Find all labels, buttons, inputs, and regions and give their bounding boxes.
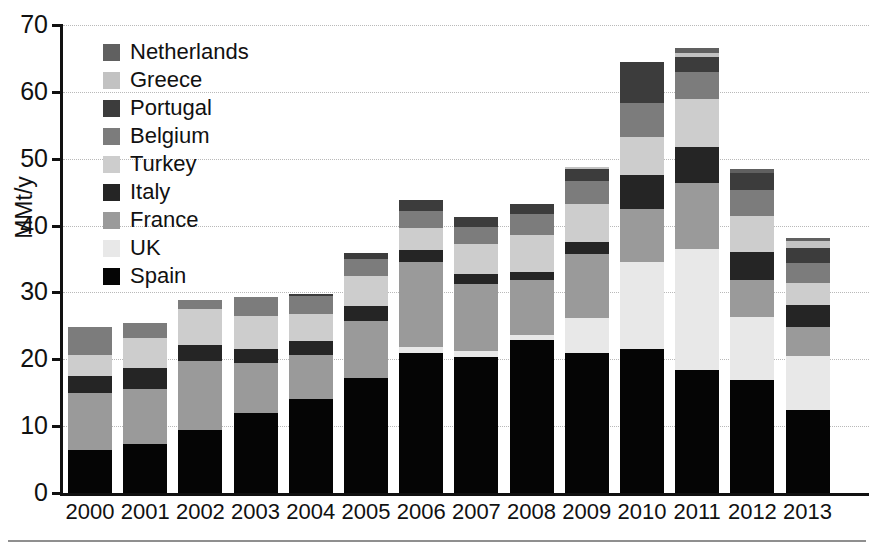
bar-segment-italy-2009 (565, 242, 609, 254)
bar-segment-france-2013 (786, 327, 830, 356)
bar-2012[interactable] (730, 169, 774, 493)
legend-item-label: Portugal (130, 97, 212, 119)
legend-item-label: France (130, 209, 198, 231)
x-axis-tick-label: 2008 (502, 500, 562, 524)
legend-item-label: UK (130, 237, 161, 259)
bar-segment-turkey-2007 (454, 244, 498, 275)
bar-segment-greece-2013 (786, 241, 830, 248)
y-axis-tick-mark (52, 492, 63, 495)
x-axis-spine (60, 493, 869, 496)
bar-segment-italy-2002 (178, 345, 222, 362)
x-axis-tick-label: 2013 (778, 500, 838, 524)
bar-segment-italy-2007 (454, 274, 498, 283)
y-axis-tick-mark (52, 291, 63, 294)
bar-2001[interactable] (123, 323, 167, 493)
legend-item-label: Netherlands (130, 41, 249, 63)
bar-segment-italy-2005 (344, 306, 388, 321)
bar-segment-italy-2001 (123, 368, 167, 389)
bar-segment-uk-2009 (565, 318, 609, 353)
bar-segment-turkey-2008 (510, 235, 554, 272)
bar-segment-portugal-2011 (675, 57, 719, 72)
bar-segment-france-2012 (730, 280, 774, 317)
bar-segment-portugal-2013 (786, 248, 830, 263)
x-axis-tick-label: 2001 (115, 500, 175, 524)
bar-segment-belgium-2012 (730, 190, 774, 217)
bar-2005[interactable] (344, 253, 388, 493)
legend-item-uk[interactable]: UK (103, 234, 333, 262)
bar-2011[interactable] (675, 48, 719, 493)
legend-item-italy[interactable]: Italy (103, 178, 333, 206)
bar-2013[interactable] (786, 238, 830, 493)
legend-swatch-icon (103, 240, 120, 257)
legend-item-label: Italy (130, 181, 170, 203)
bar-segment-spain-2000 (68, 450, 112, 493)
bar-segment-belgium-2006 (399, 211, 443, 228)
legend-item-netherlands[interactable]: Netherlands (103, 38, 333, 66)
bottom-rule-divider (8, 540, 866, 542)
bar-segment-belgium-2002 (178, 300, 222, 309)
bar-segment-france-2001 (123, 389, 167, 444)
bar-segment-portugal-2009 (565, 169, 609, 181)
bar-segment-france-2009 (565, 254, 609, 318)
y-axis-tick-mark (52, 158, 63, 161)
legend-item-portugal[interactable]: Portugal (103, 94, 333, 122)
bar-segment-france-2011 (675, 183, 719, 249)
legend-swatch-icon (103, 44, 120, 61)
y-axis-tick-label: 10 (0, 413, 48, 438)
bar-segment-france-2004 (289, 355, 333, 400)
bar-2000[interactable] (68, 327, 112, 493)
bar-segment-turkey-2006 (399, 228, 443, 249)
bar-segment-italy-2011 (675, 147, 719, 183)
bar-segment-spain-2008 (510, 340, 554, 493)
bar-segment-france-2000 (68, 393, 112, 450)
bar-segment-france-2008 (510, 280, 554, 335)
bar-segment-italy-2013 (786, 305, 830, 327)
legend-item-greece[interactable]: Greece (103, 66, 333, 94)
y-axis-tick-mark (52, 91, 63, 94)
legend-item-belgium[interactable]: Belgium (103, 122, 333, 150)
bar-segment-spain-2002 (178, 430, 222, 494)
y-axis-tick-label: 30 (0, 279, 48, 304)
legend-item-spain[interactable]: Spain (103, 262, 333, 290)
legend-swatch-icon (103, 184, 120, 201)
bar-segment-spain-2011 (675, 370, 719, 493)
bar-segment-portugal-2006 (399, 200, 443, 211)
x-axis-tick-label: 2006 (391, 500, 451, 524)
bar-2009[interactable] (565, 167, 609, 493)
bar-segment-turkey-2013 (786, 283, 830, 304)
legend-item-turkey[interactable]: Turkey (103, 150, 333, 178)
bar-2004[interactable] (289, 294, 333, 493)
bar-segment-belgium-2011 (675, 72, 719, 99)
bar-segment-turkey-2011 (675, 99, 719, 148)
legend-item-france[interactable]: France (103, 206, 333, 234)
bar-segment-spain-2012 (730, 380, 774, 493)
bar-2006[interactable] (399, 200, 443, 493)
bar-segment-belgium-2008 (510, 214, 554, 235)
bar-segment-spain-2004 (289, 399, 333, 493)
bar-2010[interactable] (620, 62, 664, 493)
x-axis-tick-label: 2003 (226, 500, 286, 524)
bar-segment-france-2003 (234, 363, 278, 414)
bar-segment-belgium-2007 (454, 227, 498, 244)
bar-segment-spain-2001 (123, 444, 167, 493)
bar-segment-belgium-2005 (344, 259, 388, 276)
y-axis-tick-mark (52, 24, 63, 27)
bar-segment-spain-2009 (565, 353, 609, 493)
bar-segment-turkey-2010 (620, 137, 664, 176)
legend-item-label: Spain (130, 265, 186, 287)
bar-2003[interactable] (234, 297, 278, 493)
bar-segment-italy-2010 (620, 175, 664, 208)
bar-segment-turkey-2012 (730, 216, 774, 251)
x-axis-tick-label: 2012 (722, 500, 782, 524)
bar-2007[interactable] (454, 217, 498, 493)
bar-segment-spain-2006 (399, 353, 443, 493)
bar-segment-italy-2004 (289, 341, 333, 355)
bar-2002[interactable] (178, 300, 222, 493)
legend-item-label: Belgium (130, 125, 209, 147)
bar-2008[interactable] (510, 204, 554, 493)
bar-segment-italy-2003 (234, 349, 278, 363)
x-axis-tick-label: 2002 (170, 500, 230, 524)
bar-segment-france-2002 (178, 361, 222, 429)
bar-segment-uk-2006 (399, 347, 443, 354)
y-axis-tick-label: 0 (0, 480, 48, 505)
